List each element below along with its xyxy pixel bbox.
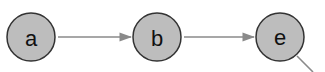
node-b-label: b — [151, 26, 163, 51]
node-e-label: e — [274, 25, 286, 50]
node-b[interactable]: b — [133, 13, 181, 61]
node-a-label: a — [25, 26, 38, 51]
graph-diagram: a b e — [0, 0, 325, 72]
node-a[interactable]: a — [7, 13, 55, 61]
node-e[interactable]: e — [256, 13, 304, 61]
edge-e-out — [297, 56, 313, 72]
